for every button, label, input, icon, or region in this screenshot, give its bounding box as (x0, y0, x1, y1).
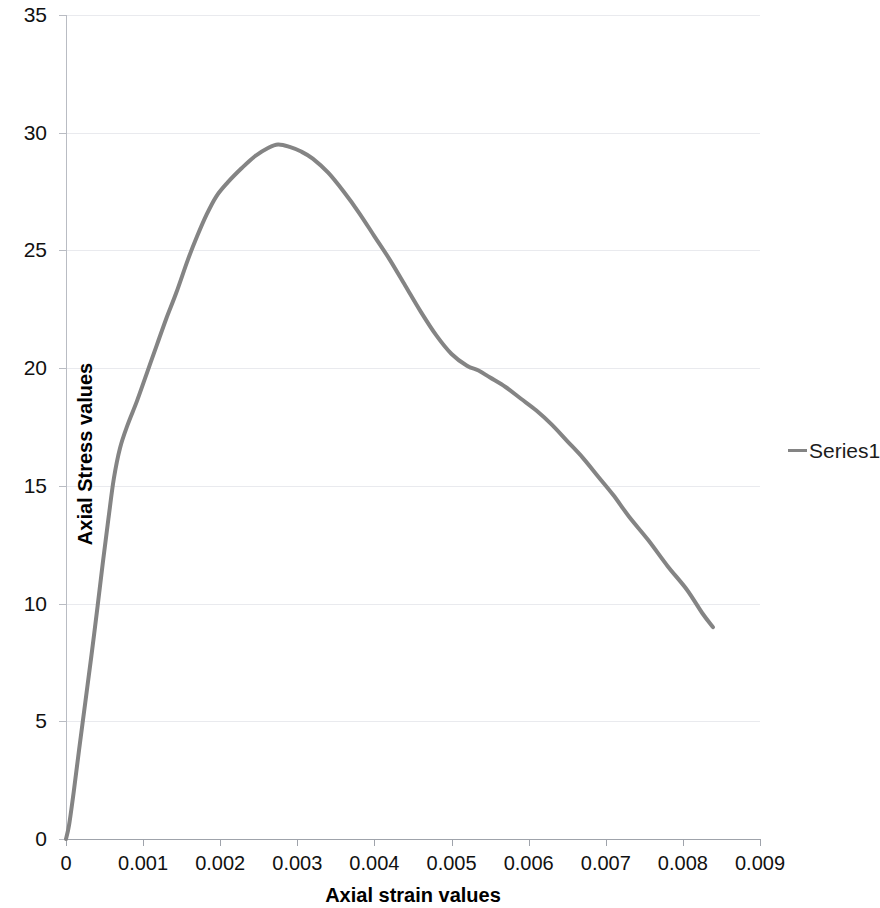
y-axis-title: Axial Stress values (74, 363, 97, 545)
gridline-y (66, 486, 760, 487)
y-axis-tick-label: 15 (1, 475, 47, 496)
y-axis-tick-label: 30 (1, 122, 47, 143)
x-axis-tick (66, 839, 67, 846)
y-axis-tick (59, 250, 66, 251)
y-axis-tick (59, 133, 66, 134)
y-axis-tick-label: 25 (1, 239, 47, 260)
legend-line-swatch (788, 449, 807, 452)
y-axis-tick-label: 5 (1, 710, 47, 731)
y-axis-tick-label: 20 (1, 357, 47, 378)
legend-label: Series1 (809, 440, 880, 461)
gridline-y (66, 721, 760, 722)
y-axis-tick (59, 721, 66, 722)
x-axis-tick (606, 839, 607, 846)
x-axis-line (66, 839, 760, 840)
gridline-y (66, 133, 760, 134)
x-axis-tick (374, 839, 375, 846)
y-axis-tick-label: 10 (1, 593, 47, 614)
y-axis-tick (59, 604, 66, 605)
y-axis-tick (59, 839, 66, 840)
gridline-y (66, 368, 760, 369)
chart-legend: Series1 (788, 440, 880, 461)
y-axis-tick (59, 15, 66, 16)
x-axis-tick (683, 839, 684, 846)
x-axis-title: Axial strain values (0, 884, 826, 907)
x-axis-tick (760, 839, 761, 846)
x-axis-tick (220, 839, 221, 846)
x-axis-tick (297, 839, 298, 846)
y-axis-tick-label: 0 (1, 828, 47, 849)
y-axis-line (66, 15, 67, 841)
y-axis-tick (59, 368, 66, 369)
x-axis-tick (529, 839, 530, 846)
plot-area (66, 15, 760, 839)
y-axis-tick (59, 486, 66, 487)
x-axis-tick (143, 839, 144, 846)
gridline-y (66, 250, 760, 251)
y-axis-tick-label: 35 (1, 4, 47, 25)
gridline-y (66, 604, 760, 605)
gridline-y (66, 15, 760, 16)
x-axis-tick-label: 0.009 (715, 852, 805, 874)
x-axis-tick (452, 839, 453, 846)
